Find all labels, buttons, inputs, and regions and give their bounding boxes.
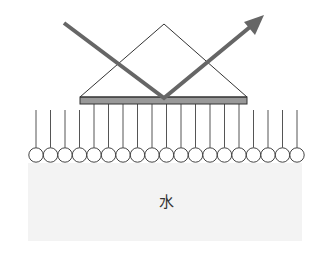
molecule-head xyxy=(290,148,304,162)
molecule-head xyxy=(130,148,144,162)
molecule-head xyxy=(232,148,246,162)
prism-triangle xyxy=(80,24,247,97)
molecule-head xyxy=(159,148,173,162)
molecule-head xyxy=(188,148,202,162)
molecule-head xyxy=(145,148,159,162)
molecule-head xyxy=(246,148,260,162)
molecule-head xyxy=(275,148,289,162)
molecule-head xyxy=(217,148,231,162)
film-reflection-diagram xyxy=(0,0,321,254)
molecule-head xyxy=(43,148,57,162)
molecule-head xyxy=(261,148,275,162)
water-label: 水 xyxy=(156,190,176,211)
molecule-head xyxy=(203,148,217,162)
molecule-head xyxy=(87,148,101,162)
molecule-head xyxy=(58,148,72,162)
molecule-head xyxy=(72,148,86,162)
molecule-head xyxy=(174,148,188,162)
molecule-head xyxy=(116,148,130,162)
monolayer-molecules xyxy=(29,104,304,162)
molecule-head xyxy=(29,148,43,162)
molecule-head xyxy=(101,148,115,162)
